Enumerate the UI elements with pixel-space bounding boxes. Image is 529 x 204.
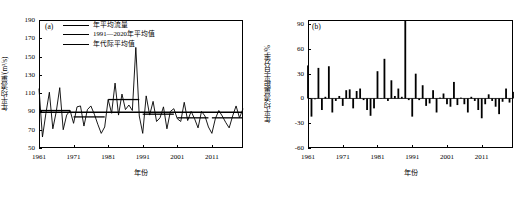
- panel-a-xtick-label: 2001: [170, 153, 184, 161]
- panel-b-ytick-label: 0: [301, 94, 305, 102]
- panel-a-ytick-mark: [39, 20, 42, 21]
- panel-a-ytick-label: 190: [25, 16, 36, 24]
- panel-a-xtick-label: 1991: [136, 153, 150, 161]
- panel-a-ytick-label: 90: [28, 107, 35, 115]
- panel-b-ytick-mark: [308, 24, 311, 25]
- panel-a-xtick-label: 1961: [32, 153, 46, 161]
- panel-b-ytick-mark: [308, 123, 311, 124]
- panel-b-ytick-mark: [308, 148, 311, 149]
- panel-a-xtick-mark: [39, 145, 40, 148]
- panel-a-xtick-label: 1981: [101, 153, 115, 161]
- panel-a-ytick-label: 150: [25, 53, 36, 61]
- panel-b-ytick-mark: [308, 74, 311, 75]
- panel-a-xtick-mark: [143, 145, 144, 148]
- panel-a-ytick-mark: [39, 111, 42, 112]
- panel-b-ytick-label: 90: [297, 20, 304, 28]
- panel-b-xtick-mark: [482, 145, 483, 148]
- panel-a-ytick-mark: [39, 38, 42, 39]
- panel-a-ytick-mark: [39, 57, 42, 58]
- panel-a-xtick-mark: [212, 145, 213, 148]
- panel-a-ytick-label: 70: [28, 126, 35, 134]
- panel-a: 年平均流量/(m³/s) (a) 年平均流量1991—2020年平均值年代际平均…: [0, 0, 264, 204]
- panel-b-xtick-label: 2001: [440, 153, 454, 161]
- panel-b-ytick-mark: [308, 49, 311, 50]
- panel-b-xtick-mark: [447, 145, 448, 148]
- panel-a-ytick-label: 110: [25, 89, 35, 97]
- panel-a-xtick-label: 2011: [205, 153, 219, 161]
- panel-b-xtick-label: 2011: [475, 153, 489, 161]
- panel-a-ytick-label: 170: [25, 34, 36, 42]
- panel-a-ytick-mark: [39, 148, 42, 149]
- panel-b-xtick-mark: [412, 145, 413, 148]
- panel-b-ytick-label: -30: [295, 119, 304, 127]
- panel-a-xtick-mark: [177, 145, 178, 148]
- panel-b-x-axis-label: 年份: [308, 167, 513, 177]
- panel-a-ytick-mark: [39, 93, 42, 94]
- panel-a-ytick-mark: [39, 75, 42, 76]
- panel-b-ytick-label: -60: [295, 144, 304, 152]
- panel-b-xtick-mark: [343, 145, 344, 148]
- figure-container: 年平均流量/(m³/s) (a) 年平均流量1991—2020年平均值年代际平均…: [0, 0, 529, 204]
- panel-a-xtick-mark: [108, 145, 109, 148]
- panel-a-ytick-label: 50: [28, 144, 35, 152]
- panel-a-xtick-label: 1971: [67, 153, 81, 161]
- panel-b-xtick-mark: [377, 145, 378, 148]
- panel-a-x-axis-label: 年份: [39, 167, 243, 177]
- panel-a-ytick-label: 130: [25, 71, 36, 79]
- panel-a-xtick-mark: [74, 145, 75, 148]
- panel-b-ytick-label: 30: [297, 70, 304, 78]
- panel-b-xtick-label: 1981: [370, 153, 384, 161]
- panel-b-xtick-mark: [308, 145, 309, 148]
- panel-a-ytick-mark: [39, 130, 42, 131]
- panel-b-ytick-label: 60: [297, 45, 304, 53]
- panel-b: 年平均流量距平百分率/% (b) 年份 -60-3003060901961197…: [264, 0, 529, 204]
- panel-b-xtick-label: 1971: [336, 153, 350, 161]
- panel-b-xtick-label: 1961: [301, 153, 315, 161]
- panel-b-ytick-mark: [308, 98, 311, 99]
- panel-b-xtick-label: 1991: [405, 153, 419, 161]
